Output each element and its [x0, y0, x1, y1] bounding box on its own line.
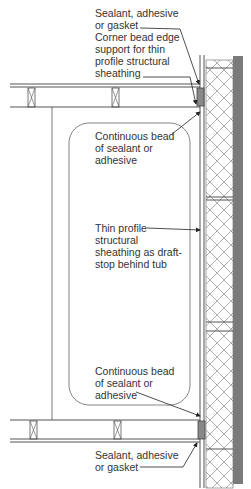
top-floor-framing	[10, 84, 204, 107]
label-corner-bead: Corner bead edge support for thin profil…	[95, 31, 180, 79]
label-top-continuous-bead: Continuous bead of sealant or adhesive	[95, 130, 174, 166]
label-top-sealant: Sealant, adhesive or gasket	[95, 7, 178, 31]
bottom-floor-framing	[10, 420, 205, 442]
wall-insulation	[206, 60, 233, 488]
label-thin-profile-sheathing: Thin profile structural sheathing as dra…	[95, 222, 182, 270]
label-bottom-sealant: Sealant, adhesive or gasket	[95, 449, 178, 473]
exterior-cladding	[233, 56, 243, 484]
label-bottom-continuous-bead: Continuous bead of sealant or adhesive	[95, 365, 174, 401]
